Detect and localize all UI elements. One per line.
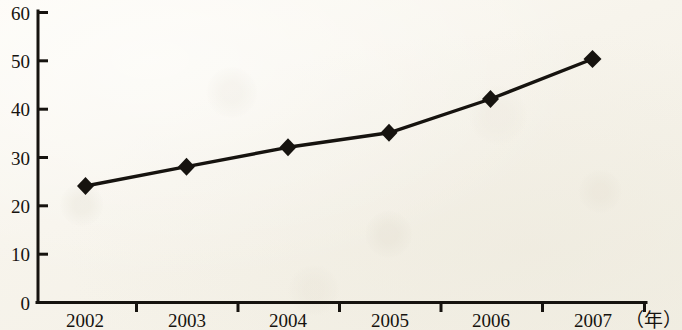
x-axis-label-2007: 2007 <box>556 311 630 330</box>
x-axis-label-2002: 2002 <box>48 311 122 330</box>
y-axis-label-0: 0 <box>0 294 30 313</box>
y-axis-label-40: 40 <box>0 100 30 119</box>
y-axis-label-20: 20 <box>0 197 30 216</box>
data-point-2007 <box>584 50 602 68</box>
data-point-2004 <box>280 138 297 156</box>
x-axis-label-2005: 2005 <box>353 311 427 330</box>
data-line-series-1 <box>86 59 593 186</box>
data-point-2005 <box>381 124 398 142</box>
y-axis-label-10: 10 <box>0 245 30 264</box>
y-axis-label-30: 30 <box>0 149 30 168</box>
y-axis-label-50: 50 <box>0 52 30 71</box>
x-axis-label-2003: 2003 <box>150 311 224 330</box>
chart-plot-area <box>0 0 682 330</box>
x-axis-unit-label: （年） <box>625 311 682 330</box>
data-point-2003 <box>178 158 195 176</box>
line-chart: 60 50 40 30 20 10 0 2002 2003 2004 2005 … <box>0 0 682 330</box>
y-axis-label-60: 60 <box>0 4 30 23</box>
data-point-2002 <box>77 177 94 195</box>
x-axis-label-2006: 2006 <box>454 311 528 330</box>
data-point-2006 <box>482 90 499 108</box>
x-axis-label-2004: 2004 <box>251 311 325 330</box>
